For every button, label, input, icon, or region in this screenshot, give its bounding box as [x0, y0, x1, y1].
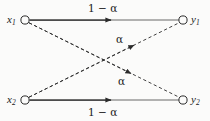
- diagram-canvas: [0, 0, 210, 121]
- node-y1: [179, 16, 187, 24]
- node-label-y1-subscript: 1: [196, 18, 200, 27]
- node-label-x1-subscript: 1: [12, 18, 16, 27]
- node-x2: [21, 96, 29, 104]
- channel-diagram: x1 x2 y1 y2 1 − α 1 − α α α: [0, 0, 210, 121]
- node-label-y1: y1: [191, 14, 200, 27]
- node-label-x1: x1: [7, 14, 16, 27]
- node-x1: [21, 16, 29, 24]
- node-label-y2-subscript: 2: [196, 98, 200, 107]
- node-label-x2: x2: [7, 94, 16, 107]
- node-y2: [179, 96, 187, 104]
- edge-label-bottom-straight: 1 − α: [88, 107, 117, 118]
- edge-label-upper-cross: α: [116, 34, 123, 45]
- node-label-y2: y2: [191, 94, 200, 107]
- edge-label-lower-cross: α: [118, 76, 125, 87]
- node-label-x2-subscript: 2: [12, 98, 16, 107]
- edge-label-top-straight: 1 − α: [88, 3, 117, 14]
